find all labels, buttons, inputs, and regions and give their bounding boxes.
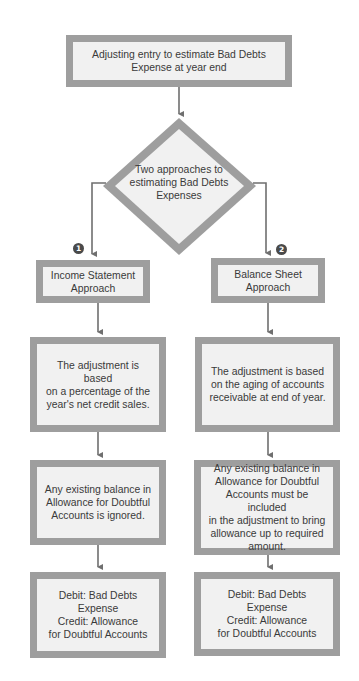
income-statement-balance-label: Any existing balance in Allowance for Do… [45,483,151,522]
balance-sheet-basis-box: The adjustment is based on the aging of … [195,337,340,432]
balance-sheet-balance-label: Any existing balance in Allowance for Do… [207,462,327,553]
income-statement-approach-label: Income Statement Approach [51,269,135,295]
income-statement-balance-box: Any existing balance in Allowance for Do… [30,460,166,545]
income-statement-basis-label: The adjustment is based on a percentage … [43,359,153,411]
balance-sheet-balance-box: Any existing balance in Allowance for Do… [194,460,340,555]
income-statement-basis-box: The adjustment is based on a percentage … [30,337,166,432]
arrow-decision-to-income-statement [92,183,106,254]
balance-sheet-entry-box: Debit: Bad Debts Expense Credit: Allowan… [194,572,340,656]
start-label: Adjusting entry to estimate Bad Debts Ex… [92,48,266,74]
income-statement-entry-label: Debit: Bad Debts Expense Credit: Allowan… [43,589,153,641]
decision-label: Two approaches to estimating Bad Debts E… [118,163,240,202]
income-statement-entry-box: Debit: Bad Debts Expense Credit: Allowan… [30,572,166,658]
balance-sheet-approach-box: Balance Sheet Approach [211,258,325,303]
arrow-decision-to-balance-sheet [253,183,266,253]
balance-sheet-basis-label: The adjustment is based on the aging of … [209,365,325,404]
balance-sheet-entry-label: Debit: Bad Debts Expense Credit: Allowan… [207,588,327,640]
badge-1-icon: 1 [73,243,84,254]
balance-sheet-approach-label: Balance Sheet Approach [234,268,302,294]
income-statement-approach-box: Income Statement Approach [36,260,150,303]
start-box: Adjusting entry to estimate Bad Debts Ex… [66,35,292,87]
badge-2-icon: 2 [276,244,287,255]
